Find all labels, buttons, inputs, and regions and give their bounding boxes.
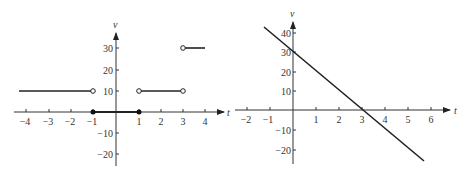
closed-point [137, 110, 142, 115]
svg-text:3: 3 [360, 114, 365, 125]
svg-text:−20: −20 [97, 149, 113, 160]
left-y-axis-label: v [113, 19, 118, 30]
svg-text:−4: −4 [20, 116, 31, 127]
svg-text:−10: −10 [97, 128, 113, 139]
svg-text:2: 2 [159, 116, 164, 127]
svg-text:10: 10 [281, 86, 291, 97]
left-x-tick-labels: −4 −3 −2 −1 1 2 3 4 [20, 116, 208, 127]
svg-text:−20: −20 [275, 145, 291, 156]
svg-text:3: 3 [181, 116, 186, 127]
svg-text:−3: −3 [43, 116, 54, 127]
left-y-tick-labels: 30 20 10 −10 −20 [97, 43, 113, 160]
svg-text:2: 2 [337, 114, 342, 125]
closed-point [91, 110, 96, 115]
left-x-axis-label: t [227, 107, 230, 118]
svg-text:−2: −2 [65, 116, 76, 127]
svg-text:40: 40 [281, 28, 291, 39]
svg-text:10: 10 [103, 86, 113, 97]
svg-text:6: 6 [429, 114, 434, 125]
open-point [91, 89, 96, 94]
left-piecewise-function [19, 48, 205, 112]
svg-text:−1: −1 [263, 114, 274, 125]
open-point [181, 46, 186, 51]
open-point [137, 89, 142, 94]
left-endpoints [91, 46, 186, 115]
svg-text:20: 20 [103, 65, 113, 76]
right-y-axis-label: v [290, 8, 295, 19]
right-x-tick-labels: −2 −1 1 2 3 4 5 6 [241, 114, 434, 125]
svg-text:−1: −1 [87, 116, 98, 127]
right-chart: t v −2 −1 1 2 3 4 5 6 [235, 8, 457, 164]
svg-text:1: 1 [314, 114, 319, 125]
svg-text:5: 5 [406, 114, 411, 125]
svg-text:30: 30 [103, 43, 113, 54]
left-chart: t v −4 −3 −2 −1 1 2 3 4 [14, 19, 230, 166]
svg-text:4: 4 [203, 116, 208, 127]
open-point [181, 89, 186, 94]
charts-canvas: t v −4 −3 −2 −1 1 2 3 4 [0, 0, 469, 177]
svg-text:20: 20 [281, 67, 291, 78]
svg-text:−10: −10 [275, 125, 291, 136]
right-x-axis-label: t [454, 105, 457, 116]
svg-text:1: 1 [137, 116, 142, 127]
svg-text:4: 4 [383, 114, 388, 125]
svg-text:−2: −2 [241, 114, 252, 125]
